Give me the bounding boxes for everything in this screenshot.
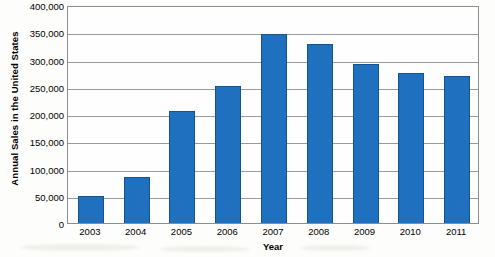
plot-area bbox=[67, 6, 479, 224]
bar-slot bbox=[261, 7, 287, 223]
x-axis-title: Year bbox=[67, 241, 479, 252]
x-tick-label: 2006 bbox=[204, 226, 250, 237]
bar-slot bbox=[398, 7, 424, 223]
bar-slot bbox=[78, 7, 104, 223]
bar-slot bbox=[444, 7, 470, 223]
x-tick-label: 2010 bbox=[387, 226, 433, 237]
y-tick-label: 100,000 bbox=[8, 164, 64, 175]
bar-slot bbox=[169, 7, 195, 223]
y-tick-label: 400,000 bbox=[8, 1, 64, 12]
y-tick-label: 200,000 bbox=[8, 110, 64, 121]
bar-2010[interactable] bbox=[398, 73, 424, 223]
bar-2009[interactable] bbox=[353, 64, 379, 223]
x-tick-label: 2009 bbox=[342, 226, 388, 237]
x-tick-label: 2008 bbox=[296, 226, 342, 237]
x-axis-tick-labels: 200320042005200620072008200920102011 bbox=[67, 226, 479, 242]
y-tick-label: 50,000 bbox=[8, 191, 64, 202]
y-tick-label: 300,000 bbox=[8, 55, 64, 66]
bar-slot bbox=[124, 7, 150, 223]
y-tick-label: 150,000 bbox=[8, 137, 64, 148]
x-tick-label: 2007 bbox=[250, 226, 296, 237]
bar-2007[interactable] bbox=[261, 34, 287, 223]
y-tick-label: 250,000 bbox=[8, 82, 64, 93]
y-tick-label: 0 bbox=[8, 219, 64, 230]
bar-slot bbox=[215, 7, 241, 223]
bar-2005[interactable] bbox=[169, 111, 195, 223]
x-tick-label: 2005 bbox=[159, 226, 205, 237]
y-axis-tick-labels: 050,000100,000150,000200,000250,000300,0… bbox=[8, 0, 64, 232]
bars-layer bbox=[68, 7, 478, 223]
x-tick-label: 2004 bbox=[113, 226, 159, 237]
bar-chart-figure: Annual Sales in the United States 050,00… bbox=[0, 0, 495, 257]
bar-slot bbox=[353, 7, 379, 223]
bar-2008[interactable] bbox=[307, 44, 333, 223]
bar-2006[interactable] bbox=[215, 86, 241, 223]
bar-2003[interactable] bbox=[78, 196, 104, 223]
bar-slot bbox=[307, 7, 333, 223]
x-tick-label: 2011 bbox=[433, 226, 479, 237]
x-tick-label: 2003 bbox=[67, 226, 113, 237]
bar-2011[interactable] bbox=[444, 76, 470, 223]
y-tick-label: 350,000 bbox=[8, 28, 64, 39]
bar-2004[interactable] bbox=[124, 177, 150, 223]
